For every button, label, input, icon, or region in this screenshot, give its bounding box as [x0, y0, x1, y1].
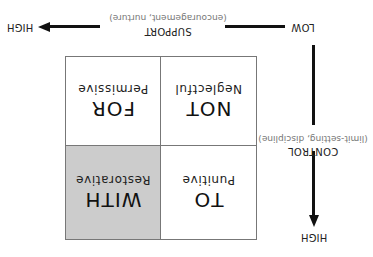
cell-title: TO: [194, 190, 224, 212]
x-axis-high-label: HIGH: [2, 22, 38, 33]
y-axis-lower-line: [313, 45, 316, 125]
x-axis-low-label: LOW: [283, 22, 323, 33]
cell-subtitle: Punitive: [182, 174, 235, 188]
cell-title: WITH: [85, 190, 142, 212]
cell-with-restorative: WITH Restorative: [65, 145, 161, 240]
cell-subtitle: Neglectful: [175, 82, 242, 96]
x-axis-label: SUPPORT: [118, 26, 218, 37]
cell-to-punitive: TO Punitive: [160, 145, 257, 240]
x-axis-right-line: [48, 25, 100, 28]
y-axis-upper-line: [313, 151, 316, 217]
y-axis-label: CONTROL: [273, 146, 353, 157]
x-axis-left-line: [225, 25, 285, 28]
cell-not-neglectful: NOT Neglectful: [160, 56, 257, 146]
social-discipline-window: HIGH CONTROL (limit-setting, discipline)…: [0, 0, 373, 257]
y-axis-sublabel: (limit-setting, discipline): [257, 134, 369, 144]
x-axis-arrow-head-icon: [38, 22, 50, 32]
cell-for-permissive: FOR Permissive: [65, 56, 161, 146]
x-axis-sublabel: (encouragement, nurture): [103, 13, 233, 23]
cell-subtitle: Permissive: [78, 82, 148, 96]
cell-title: FOR: [91, 98, 135, 120]
cell-subtitle: Restorative: [76, 174, 151, 188]
y-axis-high-label: HIGH: [299, 232, 329, 243]
cell-title: NOT: [186, 98, 232, 120]
